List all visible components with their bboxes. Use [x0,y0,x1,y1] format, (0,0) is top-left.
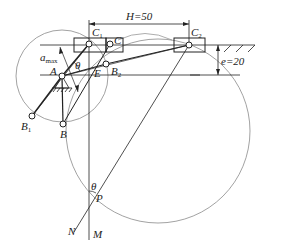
joint-B1 [29,113,35,119]
H-arrow-right [183,22,189,26]
diagram-canvas [0,0,281,252]
link-A-B [62,76,63,124]
label-B2: B2 [111,66,121,79]
label-H: H=50 [126,11,152,22]
label-B: B [60,129,67,140]
label-a-max: amax [40,52,58,65]
label-theta-A: θ [75,60,80,71]
joint-B2 [103,61,109,67]
label-M: M [93,229,102,240]
joint-A [59,73,65,79]
e-arrow-top [216,45,220,51]
joint-C [107,41,113,47]
ground-hatch-right [224,45,255,52]
joint-C1 [86,41,92,47]
label-N: N [68,226,75,237]
joint-C2 [186,42,192,48]
joint-B [60,121,66,127]
line-C2-N [74,45,189,232]
mechanism-diagram: H=50 e=20 C1 C C2 A θ E B2 amax B1 B θ P… [0,0,281,252]
label-B1: B1 [21,121,31,134]
label-C1: C1 [92,27,103,40]
label-A: A [50,66,57,77]
label-P: P [96,193,103,204]
a-max-arrow-top [59,47,63,54]
e-arrow-bottom [216,69,220,75]
label-e: e=20 [221,56,244,67]
link-A-C2 [62,45,189,76]
label-theta-P: θ [91,181,96,192]
label-C: C [114,35,121,46]
link-B-C [63,44,110,124]
label-C2: C2 [191,27,202,40]
label-E: E [94,68,101,79]
